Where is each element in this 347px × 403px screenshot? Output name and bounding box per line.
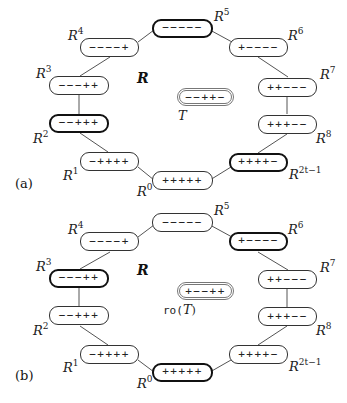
label-r4: R4: [68, 222, 84, 237]
node-r1: −++++: [80, 152, 139, 171]
node-r2t-1: ++++−: [229, 153, 288, 172]
node-r0: +++++: [152, 171, 213, 190]
node-r2: −−+++: [49, 114, 109, 133]
label-r4: R4: [68, 28, 84, 43]
label-r0: R0: [137, 376, 153, 391]
label-r2t-1: R2t−1: [289, 167, 321, 182]
label-r1: R1: [63, 168, 79, 183]
node-r8: +++−−: [258, 307, 317, 326]
label-r3: R3: [36, 66, 52, 81]
label-r2: R2: [33, 131, 49, 146]
node-r2t-1: ++++−: [229, 345, 288, 364]
target-label-text: T: [178, 108, 187, 123]
target-label: ro(T): [163, 302, 196, 317]
target-label-text: T: [183, 302, 192, 317]
target-label: T: [178, 108, 187, 123]
node-r3: −−−++: [49, 269, 109, 288]
label-r7: R7: [320, 260, 336, 275]
label-r5: R5: [214, 203, 230, 218]
node-r8: +++−−: [258, 115, 317, 134]
label-r2: R2: [33, 323, 49, 338]
node-r4: −−−−+: [80, 232, 139, 251]
node-r0: +++++: [152, 363, 213, 382]
node-r2: −−+++: [49, 306, 109, 325]
target-box: +−−++: [177, 282, 234, 300]
label-r1: R1: [63, 360, 79, 375]
label-r5: R5: [214, 9, 230, 24]
label-r3: R3: [36, 259, 52, 274]
panel-label: (a): [15, 176, 33, 191]
label-r0: R0: [137, 184, 153, 199]
node-r7: ++−−−: [258, 270, 317, 289]
panel-a: −−−−− −−−−+ +−−−− −−−++ ++−−− −−+++ +++−…: [0, 0, 347, 200]
node-r4: −−−−+: [80, 38, 139, 57]
node-r1: −++++: [80, 345, 139, 364]
label-r8: R8: [316, 323, 332, 338]
target-box: −−++−: [177, 88, 234, 106]
panel-b: −−−−− −−−−+ +−−−− −−−++ ++−−− −−+++ +++−…: [0, 200, 347, 400]
label-r6: R6: [288, 28, 304, 43]
set-label: R: [137, 70, 149, 86]
set-label: R: [137, 262, 149, 278]
node-r6: +−−−−: [229, 38, 288, 57]
node-r5: −−−−−: [152, 213, 213, 232]
node-r6: +−−−−: [229, 232, 288, 251]
node-r3: −−−++: [49, 76, 109, 95]
label-r8: R8: [316, 131, 332, 146]
label-r6: R6: [288, 222, 304, 237]
panel-label: (b): [15, 368, 33, 383]
label-r7: R7: [320, 67, 336, 82]
node-r7: ++−−−: [258, 78, 317, 97]
target-label-prefix: ro(: [163, 304, 183, 317]
label-r2t-1: R2t−1: [289, 359, 321, 374]
node-r5: −−−−−: [152, 19, 213, 38]
target-label-suffix: ): [192, 304, 196, 317]
